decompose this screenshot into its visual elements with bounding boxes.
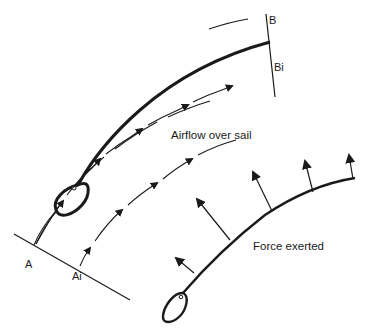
force-arrow-5 <box>349 155 353 179</box>
label-b1: Bi <box>274 61 284 73</box>
label-a: A <box>25 258 33 270</box>
baseline-b-b1 <box>266 14 275 97</box>
force-panel <box>163 155 355 322</box>
airflow-panel <box>14 14 275 300</box>
sail-top <box>78 42 270 185</box>
caption-airflow: Airflow over sail <box>171 129 252 141</box>
force-arrow-4 <box>305 161 313 192</box>
label-a1: Ai <box>72 270 82 282</box>
sail-bottom <box>183 178 355 293</box>
caption-force: Force exerted <box>253 240 324 252</box>
inner-streamline <box>80 140 236 266</box>
force-arrow-2 <box>197 199 230 240</box>
force-arrow-1 <box>176 258 194 273</box>
label-b: B <box>269 14 276 26</box>
airflow-lines-accurate <box>36 101 210 244</box>
sail-diagram: A Ai B Bi Airflow over sail Force exerte… <box>0 0 368 330</box>
force-arrow-3 <box>253 172 272 211</box>
clew-eyelet-bottom <box>179 295 183 299</box>
